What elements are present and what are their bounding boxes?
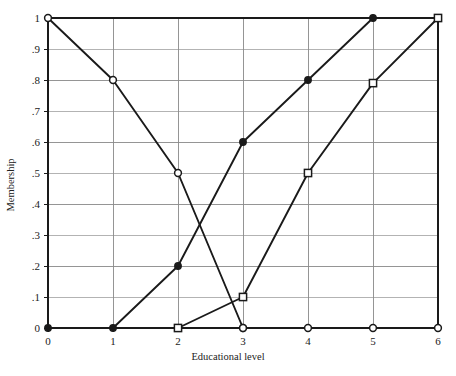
y-tick-label: .6 bbox=[32, 136, 41, 148]
data-point-marker bbox=[45, 15, 52, 22]
data-point-marker bbox=[110, 325, 117, 332]
y-tick-label: .9 bbox=[32, 43, 41, 55]
x-tick-label: 5 bbox=[370, 335, 376, 347]
x-tick-label: 6 bbox=[435, 335, 441, 347]
chart-figure: 0.1.2.3.4.5.6.7.8.910123456 Educational … bbox=[0, 0, 456, 376]
data-point-marker bbox=[435, 325, 442, 332]
y-axis-label: Membership bbox=[5, 158, 16, 211]
x-tick-label: 3 bbox=[240, 335, 246, 347]
axis-ticks bbox=[44, 18, 438, 332]
y-tick-label: .8 bbox=[32, 74, 41, 86]
x-tick-label: 2 bbox=[175, 335, 181, 347]
data-point-marker bbox=[240, 139, 247, 146]
membership-vs-educational-level-chart: 0.1.2.3.4.5.6.7.8.910123456 Educational … bbox=[0, 0, 456, 376]
data-point-marker bbox=[239, 293, 246, 300]
data-point-marker bbox=[434, 14, 441, 21]
data-point-marker bbox=[45, 325, 52, 332]
data-point-marker bbox=[305, 77, 312, 84]
x-tick-label: 4 bbox=[305, 335, 311, 347]
data-point-marker bbox=[304, 169, 311, 176]
x-axis-label: Educational level bbox=[191, 351, 264, 362]
data-point-marker bbox=[175, 170, 182, 177]
x-tick-label: 0 bbox=[45, 335, 51, 347]
y-tick-label: .5 bbox=[32, 167, 41, 179]
data-point-marker bbox=[175, 263, 182, 270]
series-baseline bbox=[240, 325, 442, 332]
y-tick-label: .7 bbox=[32, 105, 41, 117]
data-point-marker bbox=[370, 325, 377, 332]
y-tick-label: .3 bbox=[32, 229, 41, 241]
x-tick-label: 1 bbox=[110, 335, 116, 347]
y-tick-label: 0 bbox=[35, 322, 41, 334]
y-tick-label: 1 bbox=[35, 12, 41, 24]
data-point-marker bbox=[174, 324, 181, 331]
data-point-marker bbox=[240, 325, 247, 332]
y-tick-label: .4 bbox=[32, 198, 41, 210]
data-point-marker bbox=[305, 325, 312, 332]
data-point-marker bbox=[369, 80, 376, 87]
data-point-marker bbox=[110, 77, 117, 84]
y-tick-label: .2 bbox=[32, 260, 40, 272]
data-point-marker bbox=[370, 15, 377, 22]
y-tick-label: .1 bbox=[32, 291, 40, 303]
grid-lines bbox=[48, 18, 438, 328]
